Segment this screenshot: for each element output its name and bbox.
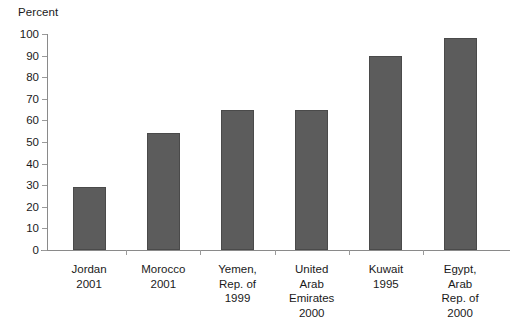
bar — [444, 38, 477, 250]
y-tick — [42, 164, 47, 165]
y-tick — [42, 34, 47, 35]
x-axis-label-line: 2000 — [421, 306, 499, 321]
y-axis-title: Percent — [18, 5, 58, 19]
x-tick — [126, 250, 127, 255]
y-tick-label: 40 — [0, 158, 39, 170]
x-axis-label-line: United — [273, 262, 351, 277]
y-tick — [42, 120, 47, 121]
x-axis-label-line: 1999 — [199, 291, 277, 306]
y-tick-label: 70 — [0, 93, 39, 105]
y-tick — [42, 56, 47, 57]
bar — [369, 56, 402, 250]
x-axis-label-line: Kuwait — [347, 262, 425, 277]
y-tick — [42, 185, 47, 186]
bar — [221, 110, 254, 250]
bar — [73, 187, 106, 250]
x-axis-label: UnitedArabEmirates2000 — [273, 262, 351, 320]
x-axis-label-line: Jordan — [50, 262, 128, 277]
x-axis-label: Yemen,Rep. of1999 — [199, 262, 277, 306]
x-axis-label-line: Yemen, — [199, 262, 277, 277]
y-tick-label: 10 — [0, 222, 39, 234]
x-axis-label: Jordan2001 — [50, 262, 128, 291]
x-axis-label-line: Rep. of — [421, 291, 499, 306]
x-tick — [349, 250, 350, 255]
x-axis-label-line: 2001 — [50, 277, 128, 292]
x-tick — [423, 250, 424, 255]
y-tick-label: 100 — [0, 28, 39, 40]
x-axis-label-line: 2001 — [124, 277, 202, 292]
y-tick-label: 20 — [0, 201, 39, 213]
y-axis-line — [47, 34, 48, 251]
y-tick-label: 90 — [0, 50, 39, 62]
y-tick — [42, 99, 47, 100]
x-tick — [200, 250, 201, 255]
y-tick-label: 0 — [0, 244, 39, 256]
x-axis-label-line: Arab — [421, 277, 499, 292]
x-axis-label: Morocco2001 — [124, 262, 202, 291]
y-tick-label: 80 — [0, 71, 39, 83]
x-axis-label-line: Arab — [273, 277, 351, 292]
x-axis-label-line: Egypt, — [421, 262, 499, 277]
x-axis-label: Kuwait1995 — [347, 262, 425, 291]
x-axis-label-line: Morocco — [124, 262, 202, 277]
x-axis-label-line: Rep. of — [199, 277, 277, 292]
y-tick-label: 30 — [0, 179, 39, 191]
y-tick — [42, 77, 47, 78]
bar — [147, 133, 180, 250]
y-tick-label: 50 — [0, 136, 39, 148]
x-tick — [275, 250, 276, 255]
y-tick — [42, 250, 47, 251]
plot-area: 0102030405060708090100 — [47, 34, 514, 250]
chart-page: Percent 0102030405060708090100 Jordan200… — [0, 0, 523, 328]
bar — [295, 110, 328, 250]
y-tick — [42, 207, 47, 208]
x-axis-label-line: 2000 — [273, 306, 351, 321]
y-tick-label: 60 — [0, 114, 39, 126]
x-axis-label: Egypt,ArabRep. of2000 — [421, 262, 499, 320]
x-axis-label-line: 1995 — [347, 277, 425, 292]
y-tick — [42, 142, 47, 143]
x-axis-label-line: Emirates — [273, 291, 351, 306]
y-tick — [42, 228, 47, 229]
